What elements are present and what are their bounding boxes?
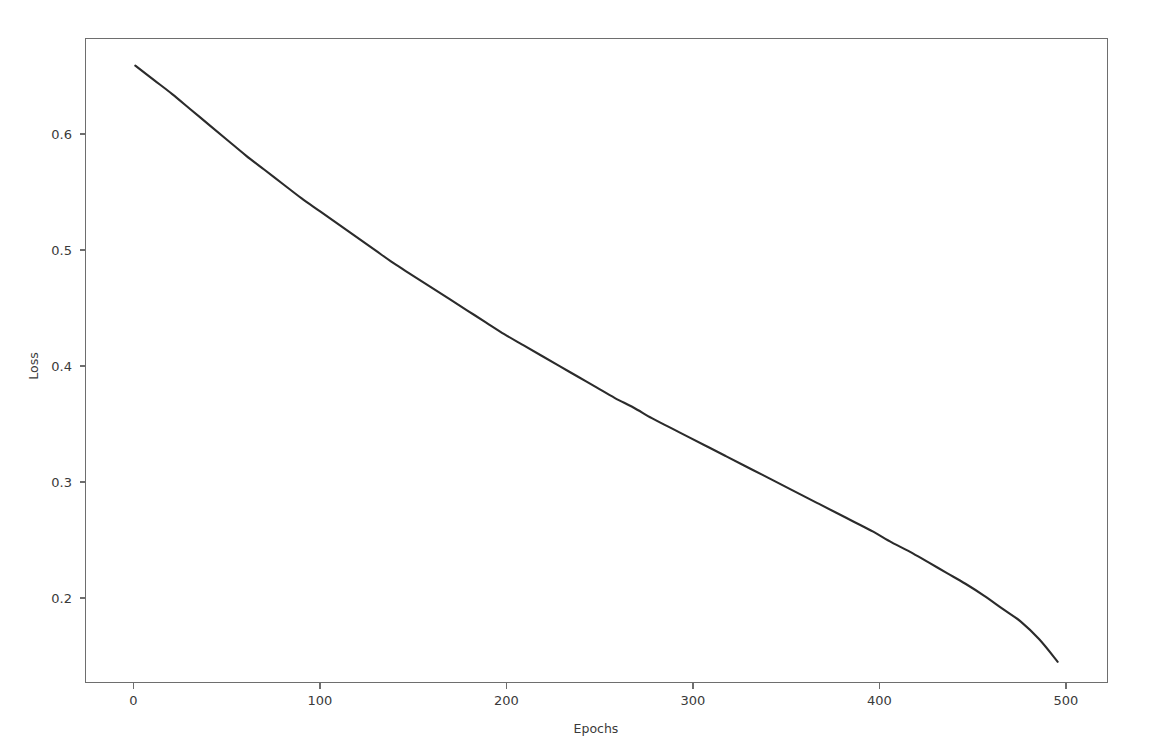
y-tick-label-0.5: 0.5: [51, 243, 72, 258]
y-tick-label-0.3: 0.3: [51, 475, 72, 490]
y-tick-label-0.2: 0.2: [51, 591, 72, 606]
loss-series-line: [135, 66, 1057, 662]
x-axis-ticks: [134, 683, 1067, 689]
loss-curve-figure: 0 100 200 300 400 500 0.2 0.3 0.4 0.5 0.…: [0, 0, 1153, 750]
y-axis-ticks: [80, 134, 86, 598]
chart-canvas: 0 100 200 300 400 500 0.2 0.3 0.4 0.5 0.…: [0, 0, 1153, 750]
x-tick-label-300: 300: [681, 693, 706, 708]
x-tick-label-500: 500: [1054, 693, 1079, 708]
x-tick-label-400: 400: [867, 693, 892, 708]
y-axis-title: Loss: [26, 352, 41, 379]
plot-area-border: [86, 39, 1108, 683]
x-axis-tick-labels: 0 100 200 300 400 500: [129, 693, 1078, 708]
x-tick-label-0: 0: [129, 693, 137, 708]
x-tick-label-200: 200: [494, 693, 519, 708]
x-axis-title: Epochs: [574, 721, 619, 736]
y-axis-tick-labels: 0.2 0.3 0.4 0.5 0.6: [51, 127, 72, 606]
y-tick-label-0.4: 0.4: [51, 359, 72, 374]
y-tick-label-0.6: 0.6: [51, 127, 72, 142]
x-tick-label-100: 100: [308, 693, 333, 708]
